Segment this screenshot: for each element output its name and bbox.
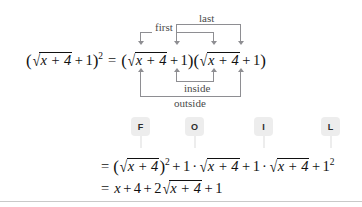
res-x: x bbox=[114, 180, 120, 196]
exp-t3-radical: √x + 4 bbox=[269, 158, 310, 174]
lhs-radical: √x + 4 bbox=[32, 52, 73, 68]
exp-plus-1: + bbox=[170, 158, 183, 174]
f1-one: 1 bbox=[181, 52, 188, 68]
exp-plus-2: + bbox=[240, 158, 253, 174]
exp-t2-radicand: x + 4 bbox=[207, 158, 240, 174]
exp-t3-coefficient: 1 bbox=[253, 158, 260, 174]
f2-close-paren: ) bbox=[260, 51, 266, 70]
label-first: first bbox=[152, 21, 176, 33]
exp-t4-exponent: 2 bbox=[330, 157, 335, 167]
res-one: 1 bbox=[215, 180, 222, 196]
res-four: 4 bbox=[134, 180, 141, 196]
exp-t3-dot: · bbox=[260, 158, 269, 174]
foil-chip-l[interactable]: L bbox=[321, 117, 340, 136]
equals-sign: = bbox=[103, 52, 121, 68]
first-bracket-left-stem bbox=[140, 32, 141, 41]
exp-t2-radical: √x + 4 bbox=[199, 158, 240, 174]
f1-plus: + bbox=[167, 52, 180, 68]
label-last: last bbox=[196, 12, 217, 24]
res-radicand: x + 4 bbox=[169, 180, 202, 196]
foil-chip-o[interactable]: O bbox=[185, 117, 204, 136]
lhs-plus: + bbox=[72, 52, 85, 68]
inside-bracket-left-stem bbox=[176, 72, 177, 81]
main-equation: (√x + 4+1)2=(√x + 4+1)(√x + 4+1) bbox=[26, 52, 266, 69]
lhs-radicand: x + 4 bbox=[39, 52, 72, 68]
last-bracket-horizontal bbox=[176, 24, 241, 25]
exp-t3-radicand: x + 4 bbox=[277, 158, 310, 174]
first-arrow-left-head bbox=[138, 41, 144, 45]
first-bracket-right-stem bbox=[213, 32, 214, 41]
exp-t2-dot: · bbox=[190, 158, 199, 174]
chip-stem-o bbox=[194, 134, 196, 148]
f1-radicand: x + 4 bbox=[135, 52, 168, 68]
res-plus-2: + bbox=[141, 180, 154, 196]
outside-bracket-right-stem bbox=[240, 72, 241, 96]
expansion-line: =(√x + 4)2+1·√x + 4+1·√x + 4+12 bbox=[101, 158, 335, 175]
figure-root: last first inside outside (√x + 4+1)2=(√… bbox=[0, 0, 362, 207]
exp-t4-base: 1 bbox=[323, 158, 330, 174]
exp-plus-3: + bbox=[309, 158, 322, 174]
result-line: =x+4+2√x + 4+1 bbox=[101, 180, 222, 196]
chip-stem-l bbox=[330, 134, 332, 148]
chip-stem-i bbox=[263, 134, 265, 148]
f1-radical: √x + 4 bbox=[127, 52, 168, 68]
chip-stem-f bbox=[140, 134, 142, 148]
exp-t1-radicand: x + 4 bbox=[127, 158, 160, 174]
last-bracket-right-stem bbox=[240, 24, 241, 41]
lhs-one: 1 bbox=[85, 52, 92, 68]
f2-radicand: x + 4 bbox=[207, 52, 240, 68]
foil-chip-f[interactable]: F bbox=[131, 117, 150, 136]
label-outside: outside bbox=[171, 97, 209, 109]
res-coefficient: 2 bbox=[154, 180, 161, 196]
last-arrow-right-head bbox=[238, 41, 244, 45]
exp-t1-radical: √x + 4 bbox=[119, 158, 160, 174]
res-plus-1: + bbox=[121, 180, 134, 196]
outside-bracket-left-stem bbox=[140, 72, 141, 96]
foil-chip-i[interactable]: I bbox=[254, 117, 273, 136]
last-arrow-left-head bbox=[174, 41, 180, 45]
res-equals: = bbox=[101, 180, 109, 196]
inside-bracket-right-stem bbox=[213, 72, 214, 81]
label-inside: inside bbox=[181, 82, 213, 94]
res-plus-3: + bbox=[202, 180, 215, 196]
first-arrow-right-head bbox=[211, 41, 217, 45]
bottom-divider bbox=[0, 201, 362, 202]
res-radical: √x + 4 bbox=[162, 180, 203, 196]
exp-equals: = bbox=[101, 158, 109, 174]
f2-plus: + bbox=[240, 52, 253, 68]
f2-radical: √x + 4 bbox=[199, 52, 240, 68]
